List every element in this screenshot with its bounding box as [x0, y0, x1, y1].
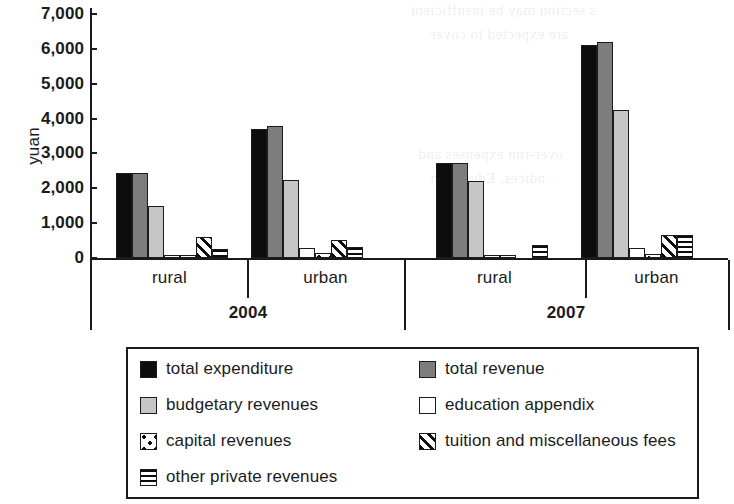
bar-group [434, 8, 550, 258]
bar-group [579, 8, 695, 258]
legend-item-label: total revenue [445, 359, 545, 379]
y-axis-ticks: 01,0002,0003,0004,0005,0006,0007,000 [4, 0, 84, 338]
bar [180, 255, 196, 258]
bar [452, 163, 468, 258]
legend-item[interactable]: tuition and miscellaneous fees [419, 431, 676, 451]
bar [677, 235, 693, 258]
legend-swatch-icon [140, 469, 157, 486]
axis-bracket-right [728, 260, 730, 330]
bar [500, 255, 516, 258]
bar [532, 245, 548, 258]
bar [196, 237, 212, 258]
bar [212, 249, 228, 258]
y-axis-tick-label: 4,000 [8, 109, 84, 129]
bar [661, 235, 677, 258]
x-axis-group-label: 2004 [92, 303, 404, 323]
legend-item-label: capital revenues [166, 431, 291, 451]
y-axis-tick-label: 7,000 [8, 4, 84, 24]
x-axis-line [90, 258, 728, 260]
bar [315, 253, 331, 258]
bar [468, 181, 484, 258]
y-axis-tick-label: 3,000 [8, 143, 84, 163]
y-axis-tick-label: 1,000 [8, 213, 84, 233]
bar [613, 110, 629, 258]
bar [347, 247, 363, 259]
x-axis-group-label: 2007 [404, 303, 728, 323]
bar-group [114, 8, 230, 258]
x-axis-subcategory-label: urban [585, 268, 728, 288]
bar [267, 126, 283, 258]
legend-item[interactable]: total revenue [419, 359, 545, 379]
x-axis-subcategory-label: urban [247, 268, 404, 288]
legend-item[interactable]: total expenditure [140, 359, 293, 379]
bar [629, 248, 645, 258]
legend-item[interactable]: capital revenues [140, 431, 291, 451]
plot-area [92, 8, 728, 258]
bar [116, 173, 132, 258]
legend-swatch-icon [419, 397, 436, 414]
bar [164, 255, 180, 258]
legend-item-label: total expenditure [166, 359, 293, 379]
bar [331, 240, 347, 258]
legend-swatch-icon [140, 433, 157, 450]
bar [645, 254, 661, 258]
y-axis-tick-label: 6,000 [8, 39, 84, 59]
bar [436, 163, 452, 258]
bar [251, 129, 267, 258]
legend-swatch-icon [140, 397, 157, 414]
legend-item-label: education appendix [445, 395, 594, 415]
chart-legend: total expendituretotal revenuebudgetary … [126, 347, 699, 499]
bar [132, 173, 148, 258]
x-axis-subcategory-label: rural [92, 268, 247, 288]
legend-swatch-icon [419, 361, 436, 378]
bar [581, 45, 597, 258]
y-axis-tick-label: 5,000 [8, 74, 84, 94]
bar [283, 180, 299, 258]
bar-chart: yuan 01,0002,0003,0004,0005,0006,0007,00… [0, 0, 734, 338]
y-axis-tick-label: 2,000 [8, 178, 84, 198]
y-axis-tick-label: 0 [8, 248, 84, 268]
bar [597, 42, 613, 258]
bar [484, 255, 500, 258]
bar [299, 248, 315, 258]
legend-swatch-icon [140, 361, 157, 378]
legend-item[interactable]: education appendix [419, 395, 594, 415]
legend-swatch-icon [419, 433, 436, 450]
legend-item-label: other private revenues [166, 467, 337, 487]
legend-item-label: tuition and miscellaneous fees [445, 431, 676, 451]
legend-item-label: budgetary revenues [166, 395, 318, 415]
legend-item[interactable]: budgetary revenues [140, 395, 318, 415]
legend-item[interactable]: other private revenues [140, 467, 337, 487]
bar-group [249, 8, 365, 258]
bar [148, 206, 164, 258]
x-axis-subcategory-label: rural [404, 268, 585, 288]
